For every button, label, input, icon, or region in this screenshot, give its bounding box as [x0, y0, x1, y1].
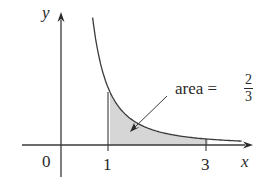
fraction-denominator: 3: [245, 90, 252, 104]
tick-label-3: 3: [201, 156, 210, 173]
x-axis-label: x: [241, 153, 249, 170]
tick-label-1: 1: [103, 156, 112, 173]
origin-label: 0: [42, 153, 51, 170]
graph: [0, 0, 273, 185]
y-axis-label: y: [42, 4, 50, 21]
shaded-area: [110, 92, 208, 145]
annotation-arrow: [134, 96, 167, 128]
annotation-text: area =: [175, 80, 217, 97]
annotation-fraction: 2 3: [244, 73, 253, 104]
fraction-numerator: 2: [245, 73, 252, 87]
